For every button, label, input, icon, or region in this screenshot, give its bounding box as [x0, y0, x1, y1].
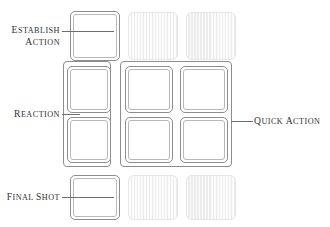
- leader-line-quick-action: [231, 121, 253, 122]
- cell-inner: [187, 13, 235, 59]
- label-establish-action: ESTABLISH ACTION: [0, 24, 60, 48]
- cell-r1c1-establish-action[interactable]: [70, 11, 120, 61]
- cell-inner: [128, 120, 170, 160]
- cell-inner: [128, 69, 170, 110]
- label-establish-action-line1: ESTABLISH: [0, 24, 60, 36]
- cell-inner: [129, 13, 177, 59]
- cell-inner: [183, 69, 225, 110]
- cell-r2c2-quick-action[interactable]: [125, 66, 173, 113]
- cell-r2c3-quick-action[interactable]: [180, 66, 228, 113]
- cell-r3c2-quick-action[interactable]: [125, 117, 173, 163]
- label-reaction: REACTION: [0, 108, 60, 120]
- cell-r2c1-reaction[interactable]: [67, 66, 111, 113]
- cell-inner: [70, 120, 108, 160]
- label-final-shot-line1: FINAL SHOT: [0, 191, 60, 203]
- label-establish-action-line2: ACTION: [0, 36, 60, 48]
- cell-inner: [73, 14, 117, 58]
- cell-inner: [187, 176, 235, 219]
- leader-line-final-shot: [62, 197, 114, 198]
- cell-r3c1-reaction[interactable]: [67, 117, 111, 163]
- label-quick-action-line1: QUICK ACTION: [254, 115, 330, 127]
- cell-r1c3[interactable]: [186, 12, 236, 60]
- cell-inner: [70, 69, 108, 110]
- label-quick-action: QUICK ACTION: [254, 115, 330, 127]
- cell-r4c3[interactable]: [186, 175, 236, 220]
- label-final-shot: FINAL SHOT: [0, 191, 60, 203]
- label-reaction-line1: REACTION: [0, 108, 60, 120]
- cell-inner: [183, 120, 225, 160]
- leader-line-establish-action: [62, 31, 114, 32]
- storyboard-grid-diagram: ESTABLISH ACTION REACTION FINAL SHOT QUI…: [0, 0, 330, 227]
- cell-r4c2[interactable]: [128, 175, 178, 220]
- leader-line-reaction: [62, 114, 80, 115]
- cell-r1c2[interactable]: [128, 12, 178, 60]
- cell-inner: [129, 176, 177, 219]
- cell-r3c3-quick-action[interactable]: [180, 117, 228, 163]
